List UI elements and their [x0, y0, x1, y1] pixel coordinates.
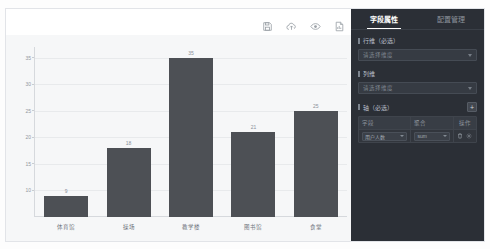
settings-icon[interactable]	[466, 133, 473, 140]
x-axis-category-label: 教学楼	[160, 225, 222, 231]
x-axis-category-label: 操场	[97, 225, 159, 231]
axis-table: 字段 聚合 操作 用户人数	[358, 116, 477, 143]
config-tabs: 字段属性 配置管理	[351, 9, 484, 30]
section-row-dimension: 行维（必选） 请选择维度	[358, 36, 477, 61]
col-dimension-select[interactable]: 请选择维度	[358, 82, 477, 94]
bar[interactable]	[107, 148, 151, 217]
row-dimension-label: 行维（必选）	[363, 36, 399, 45]
bar-group: 18	[97, 47, 159, 217]
tab-config-management-label: 配置管理	[437, 14, 465, 24]
bars-layer: 918352125	[35, 47, 347, 217]
axis-label: 轴（必选）	[363, 103, 393, 112]
bar[interactable]	[169, 58, 213, 217]
bullet-marker-icon	[358, 71, 360, 77]
x-axis-labels: 体育馆操场教学楼图书馆食堂	[35, 221, 347, 235]
export-report-icon[interactable]	[332, 19, 347, 34]
section-col-dimension: 列维 请选择维度	[358, 69, 477, 94]
col-dimension-label: 列维	[363, 69, 375, 78]
editor-frame: 353025201510 918352125 体育馆操场教学楼图书馆食堂 字段属…	[5, 8, 485, 242]
axis-table-row: 用户人数 sum	[359, 129, 476, 142]
cloud-upload-icon[interactable]	[284, 19, 299, 34]
bullet-marker-icon	[358, 38, 360, 44]
axis-field-value: 用户人数	[365, 133, 398, 140]
y-axis-tick-label: 35	[25, 55, 34, 60]
y-axis-tick-label: 15	[25, 161, 34, 166]
config-body: 行维（必选） 请选择维度 列维 请选择维度	[351, 30, 484, 143]
axis-col-field-header: 字段	[359, 117, 410, 129]
axis-field-select[interactable]: 用户人数	[362, 132, 407, 141]
bi-chart-editor-screen: 353025201510 918352125 体育馆操场教学楼图书馆食堂 字段属…	[0, 0, 490, 249]
bar-value-label: 25	[313, 104, 319, 109]
x-axis-category-label: 食堂	[285, 225, 347, 231]
x-axis-category-label: 体育馆	[35, 225, 97, 231]
chevron-down-icon	[468, 54, 472, 57]
y-axis-tick-label: 25	[25, 108, 34, 113]
save-icon[interactable]	[260, 19, 275, 34]
chevron-down-icon	[443, 135, 447, 137]
delete-icon[interactable]	[457, 133, 464, 140]
bar-group: 21	[222, 47, 284, 217]
bar-value-label: 18	[126, 141, 132, 146]
y-axis-tick-label: 10	[25, 188, 34, 193]
row-dimension-value: 请选择维度	[363, 51, 465, 59]
eye-preview-icon[interactable]	[308, 19, 323, 34]
axis-action-cell	[453, 130, 476, 142]
tab-config-management[interactable]: 配置管理	[418, 9, 485, 29]
tab-field-properties-label: 字段属性	[370, 14, 398, 24]
axis-aggregate-select[interactable]: sum	[414, 132, 449, 141]
axis-aggregate-value: sum	[417, 133, 440, 139]
bar[interactable]	[294, 111, 338, 217]
x-axis-category-label: 图书馆	[222, 225, 284, 231]
bar-value-label: 21	[251, 125, 257, 130]
col-dimension-label-row: 列维	[358, 69, 477, 78]
axis-label-row: 轴（必选） +	[358, 102, 477, 112]
config-panel: 字段属性 配置管理 行维（必选） 请选择维度	[351, 9, 484, 241]
axis-col-aggregate-header: 聚合	[410, 117, 452, 129]
row-dimension-label-row: 行维（必选）	[358, 36, 477, 45]
chevron-down-icon	[468, 87, 472, 90]
plot-area: 353025201510 918352125 体育馆操场教学楼图书馆食堂	[6, 35, 351, 241]
bar-group: 9	[35, 47, 97, 217]
axis-table-header: 字段 聚合 操作	[359, 117, 476, 129]
add-axis-button[interactable]: +	[467, 102, 477, 112]
col-dimension-value: 请选择维度	[363, 84, 465, 92]
tab-field-properties[interactable]: 字段属性	[351, 9, 418, 29]
row-dimension-select[interactable]: 请选择维度	[358, 49, 477, 61]
bullet-marker-icon	[358, 104, 360, 110]
bar[interactable]	[231, 132, 275, 217]
bar[interactable]	[44, 196, 88, 217]
y-axis-tick-label: 20	[25, 135, 34, 140]
y-axis-tick-label: 30	[25, 82, 34, 87]
bar-group: 35	[160, 47, 222, 217]
chevron-down-icon	[400, 135, 404, 137]
bar-group: 25	[285, 47, 347, 217]
axis-aggregate-cell: sum	[410, 130, 452, 142]
chart-toolbar	[260, 15, 347, 37]
bar-value-label: 9	[65, 189, 68, 194]
bar-value-label: 35	[188, 51, 194, 56]
section-axis: 轴（必选） + 字段 聚合 操作 用户人数	[358, 102, 477, 143]
axis-col-action-header: 操作	[453, 117, 476, 129]
axis-field-cell: 用户人数	[359, 130, 410, 142]
chart-preview-pane: 353025201510 918352125 体育馆操场教学楼图书馆食堂	[6, 9, 351, 241]
